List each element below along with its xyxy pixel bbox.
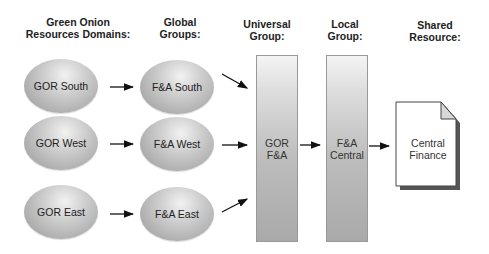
connector-arrows: [0, 0, 489, 254]
